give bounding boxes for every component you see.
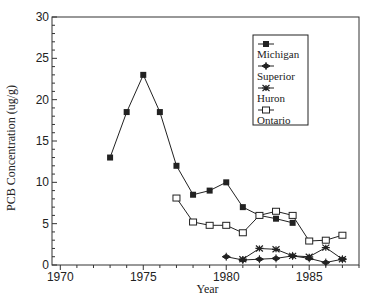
open-square-marker-icon: [190, 219, 197, 225]
y-tick-label: 30: [36, 10, 50, 24]
y-tick-label: 20: [36, 93, 50, 107]
square-marker-icon: [223, 179, 229, 185]
square-marker-icon: [207, 188, 213, 194]
square-marker-icon: [107, 155, 113, 161]
diamond-marker-icon: [255, 255, 263, 263]
square-marker-icon: [190, 192, 196, 198]
diamond-marker-icon: [272, 254, 280, 262]
y-tick-label: 10: [36, 175, 50, 189]
open-square-marker-icon: [306, 238, 313, 244]
x-axis-title: Year: [196, 282, 218, 296]
open-square-marker-icon: [339, 232, 346, 238]
x-tick-label: 1985: [296, 270, 323, 284]
plot-border: [52, 17, 359, 265]
asterisk-marker-icon: [322, 245, 330, 251]
diamond-marker-icon: [222, 253, 230, 261]
pcb-line-chart: 051015202530 1970197519801985 PCB Concen…: [0, 0, 378, 306]
square-marker-icon: [173, 163, 179, 169]
square-marker-icon: [290, 220, 296, 226]
square-marker-icon: [273, 216, 279, 222]
square-marker-icon: [240, 204, 246, 210]
asterisk-marker-icon: [239, 256, 247, 262]
square-marker-icon: [140, 72, 146, 78]
open-square-marker-icon: [223, 222, 230, 228]
open-square-marker-icon: [206, 222, 213, 228]
asterisk-marker-icon: [262, 85, 270, 91]
asterisk-marker-icon: [289, 253, 297, 259]
legend-label: Ontario: [257, 114, 291, 126]
y-axis-title: PCB Concentration (ug/g): [4, 85, 18, 211]
asterisk-marker-icon: [255, 245, 263, 251]
open-square-marker-icon: [289, 212, 296, 218]
y-tick-label: 5: [42, 217, 49, 231]
open-square-marker-icon: [173, 195, 180, 201]
legend: MichiganSuperiorHuronOntario: [253, 35, 308, 126]
y-tick-label: 15: [36, 134, 50, 148]
plot-frame: [52, 17, 359, 265]
series-line: [177, 198, 343, 241]
legend-label: Huron: [257, 92, 286, 104]
x-tick-label: 1975: [130, 270, 157, 284]
legend-label: Superior: [257, 70, 295, 82]
asterisk-marker-icon: [272, 246, 280, 252]
y-tick-label: 25: [36, 51, 50, 65]
square-marker-icon: [124, 109, 130, 115]
open-square-marker-icon: [256, 212, 263, 218]
open-square-marker-icon: [322, 237, 329, 243]
open-square-marker-icon: [263, 107, 270, 113]
square-marker-icon: [157, 109, 163, 115]
open-square-marker-icon: [273, 208, 280, 214]
open-square-marker-icon: [239, 230, 246, 236]
square-marker-icon: [263, 41, 269, 47]
series-layer: [107, 72, 346, 267]
asterisk-marker-icon: [305, 254, 313, 260]
y-axis: 051015202530: [36, 10, 57, 272]
asterisk-marker-icon: [338, 256, 346, 262]
x-tick-label: 1970: [47, 270, 74, 284]
legend-label: Michigan: [257, 48, 300, 60]
series-ontario: [173, 195, 346, 244]
